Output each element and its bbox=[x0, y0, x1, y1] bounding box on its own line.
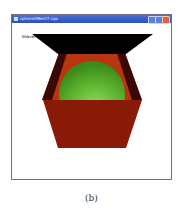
scene-render bbox=[12, 23, 171, 180]
app-window: spherehMesh7.cpp bbox=[11, 14, 172, 180]
window-title: spherehMesh7.cpp bbox=[20, 15, 58, 23]
app-icon bbox=[14, 17, 18, 21]
overlay-text: Unaveraged normals! bbox=[22, 34, 68, 39]
box-front-face bbox=[43, 100, 142, 148]
figure-caption: (b) bbox=[0, 193, 183, 203]
title-bar[interactable]: spherehMesh7.cpp bbox=[12, 15, 171, 23]
gl-canvas[interactable]: Unaveraged normals! bbox=[12, 23, 171, 179]
